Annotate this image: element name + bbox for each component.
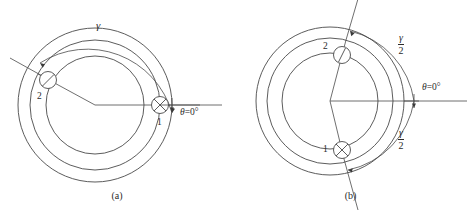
panel-b: γ 2 γ 2 2 1 θ=0° (b) [234, 0, 467, 213]
conductor-1-label: 1 [323, 145, 328, 155]
gamma-half-lower-numerator: γ [398, 128, 404, 139]
gamma-half-lower-arc [348, 101, 414, 170]
gamma-half-lower-label: γ 2 [398, 128, 404, 151]
gamma-half-upper-label: γ 2 [398, 33, 404, 56]
radial-extension-conductor-1 [344, 159, 358, 210]
panel-a: γ 2 1 θ=0° (a) [0, 0, 234, 213]
theta-zero-label: θ=0° [180, 108, 199, 118]
panel-b-drawing [234, 0, 467, 213]
panel-b-caption: (b) [234, 190, 467, 201]
gamma-label: γ [96, 20, 100, 31]
figure-container: γ 2 1 θ=0° (a) [0, 0, 467, 213]
gamma-half-lower-denominator: 2 [398, 141, 404, 152]
theta-zero-label: θ=0° [422, 83, 441, 93]
conductor-1-label: 1 [157, 118, 162, 128]
conductor-2-marker [334, 47, 351, 64]
theta-value: 0° [190, 107, 199, 117]
gamma-half-upper-numerator: γ [398, 33, 404, 44]
conductor-1-marker [334, 142, 351, 159]
theta-value: 0° [432, 82, 441, 92]
gamma-half-upper-denominator: 2 [398, 46, 404, 57]
conductor-2-label: 2 [37, 92, 42, 102]
panel-a-caption: (a) [0, 190, 234, 201]
conductor-2-label: 2 [323, 42, 328, 52]
conductor-2-marker [40, 72, 57, 89]
